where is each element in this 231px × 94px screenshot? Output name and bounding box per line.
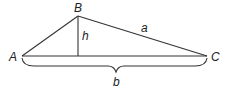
side-ab [22,16,78,56]
vertex-label-a: A [8,50,17,64]
side-label-a: a [141,21,148,35]
base-brace [22,58,207,72]
vertex-label-c: C [211,50,220,64]
height-label-h: h [82,29,89,43]
base-label-b: b [113,75,120,89]
triangle-diagram: A B C h a b [0,0,231,94]
vertex-label-b: B [74,1,82,15]
